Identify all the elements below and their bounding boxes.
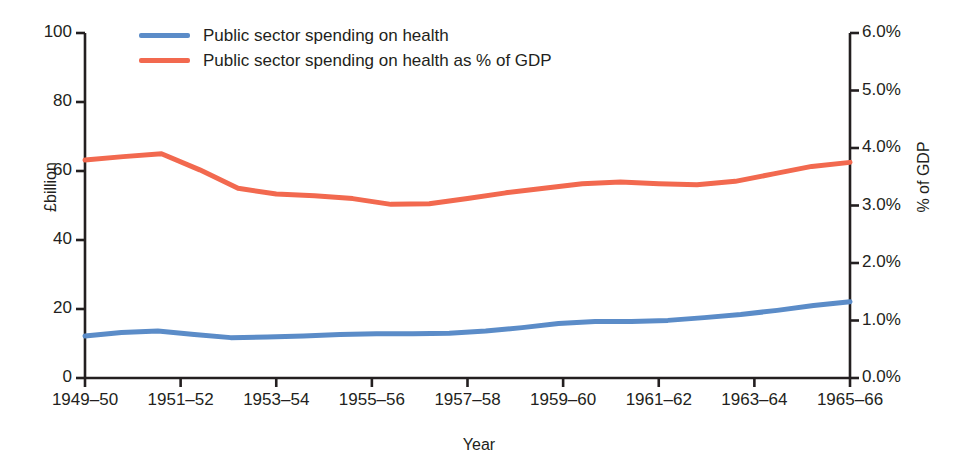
legend-item[interactable]: Public sector spending on health as % of…: [139, 48, 552, 73]
legend-item[interactable]: Public sector spending on health: [139, 23, 552, 48]
series-lines: [85, 154, 850, 338]
legend-label: Public sector spending on health as % of…: [203, 51, 552, 71]
series-line: [85, 154, 850, 205]
legend-swatch-icon: [139, 33, 190, 38]
chart-figure: £billion % of GDP Year 020406080100 0.0%…: [0, 0, 958, 474]
legend-label: Public sector spending on health: [203, 26, 449, 46]
legend-swatch-icon: [139, 58, 190, 63]
series-line: [85, 302, 850, 338]
chart-legend: Public sector spending on healthPublic s…: [139, 23, 552, 73]
